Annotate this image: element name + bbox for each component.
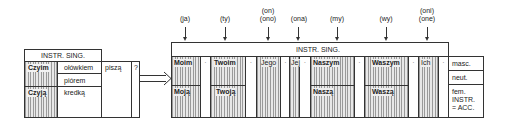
verb-pisza: piszą [105, 64, 121, 72]
noun-kredka: kredką [64, 89, 85, 97]
form-moja: Moją [174, 88, 190, 96]
separator: · [355, 59, 364, 66]
left-header-label: INSTR. SING. [25, 52, 101, 60]
form-moim: Moim [174, 59, 192, 67]
form-jego: Jego [261, 59, 276, 67]
form-ich: Ich [421, 59, 430, 67]
noun-piorem: piórem [64, 77, 85, 85]
noun-olowkiem: ołówkiem [64, 64, 93, 72]
form-twoim: Twoim [214, 59, 236, 67]
label-ona: (ona) [289, 15, 309, 23]
form-nasza: Naszą [313, 88, 333, 96]
form-wasza: Waszą [372, 88, 394, 96]
legend-acc: = ACC. [452, 104, 474, 112]
question-mark: ? [134, 64, 138, 72]
arrow-down-icon [386, 27, 387, 38]
form-twoja: Twoją [216, 88, 235, 96]
legend-fem: fem. [452, 88, 466, 96]
legend-instr: INSTR. [452, 96, 475, 104]
right-table-header: INSTR. SING. [171, 42, 449, 57]
legend-neut: neut. [452, 74, 468, 82]
label-oni: (oni) [417, 7, 437, 15]
form-waszym: Waszym [372, 59, 400, 67]
arrow-down-icon [268, 27, 269, 38]
legend-masc: masc. [452, 60, 471, 68]
arrow-down-icon [427, 27, 428, 38]
label-my: (my) [328, 15, 346, 23]
label-on: (on) [259, 7, 277, 15]
question-czyja: Czyją [27, 89, 47, 97]
label-ja: (ja) [177, 15, 193, 23]
separator: · [300, 59, 310, 66]
arrow-down-icon [225, 27, 226, 38]
double-arrow-icon [140, 71, 172, 87]
right-header-label: INSTR. SING. [172, 46, 448, 54]
form-jej: Jej [291, 59, 300, 67]
question-czyim: Czyim [27, 64, 50, 72]
label-wy: (wy) [377, 15, 395, 23]
label-ono: (ono) [257, 15, 279, 23]
separator: · [201, 59, 210, 66]
label-ty: (ty) [217, 15, 233, 23]
arrow-down-icon [185, 27, 186, 38]
separator: · [439, 59, 448, 66]
arrow-down-icon [337, 27, 338, 38]
arrow-down-icon [298, 27, 299, 38]
form-naszym: Naszym [313, 59, 339, 67]
separator: · [409, 59, 418, 66]
label-one: (one) [417, 15, 437, 23]
separator: · [246, 59, 256, 66]
